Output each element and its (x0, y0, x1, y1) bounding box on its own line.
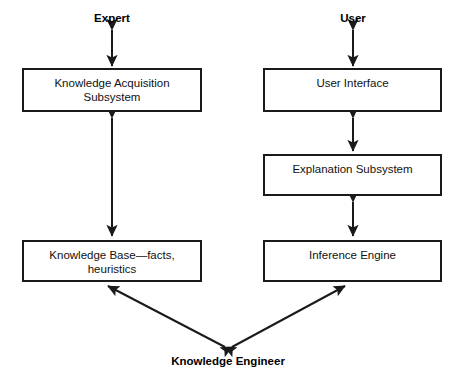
node-knowledge-base[interactable]: Knowledge Base—facts, heuristics (22, 240, 202, 282)
connector-engineer-to-inference-engine (232, 286, 345, 347)
node-explanation-subsystem[interactable]: Explanation Subsystem (263, 154, 442, 196)
node-label-explanation-subsystem: Explanation Subsystem (265, 162, 440, 176)
node-label-knowledge-base: Knowledge Base—facts, heuristics (24, 248, 200, 276)
node-label-inference-engine: Inference Engine (265, 248, 440, 262)
actor-label-user: User (340, 12, 366, 24)
node-label-knowledge-acquisition-subsystem: Knowledge Acquisition Subsystem (24, 76, 200, 104)
node-knowledge-acquisition-subsystem[interactable]: Knowledge Acquisition Subsystem (22, 68, 202, 112)
node-label-user-interface: User Interface (265, 76, 440, 90)
actor-label-expert: Expert (94, 12, 130, 24)
actor-label-knowledge-engineer: Knowledge Engineer (171, 355, 285, 367)
node-user-interface[interactable]: User Interface (263, 68, 442, 112)
expert-system-diagram: Expert User Knowledge Engineer Knowledge… (0, 0, 461, 384)
node-inference-engine[interactable]: Inference Engine (263, 240, 442, 282)
connector-engineer-to-knowledge-base (108, 286, 225, 347)
